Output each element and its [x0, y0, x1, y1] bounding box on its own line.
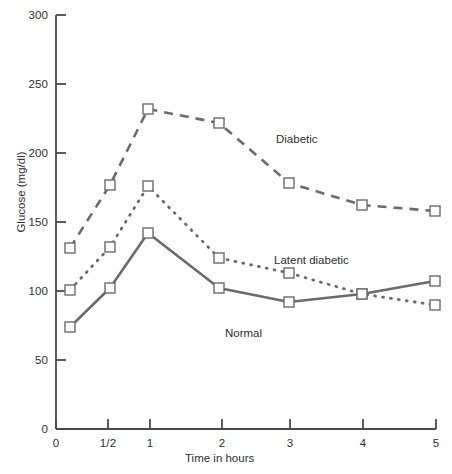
series-label-latent-diabetic: Latent diabetic — [274, 254, 349, 266]
x-axis-ticks — [56, 419, 436, 429]
x-tick-label-half: 1/2 — [100, 437, 116, 449]
series-diabetic-markers — [65, 104, 440, 253]
x-tick-label-2: 2 — [219, 437, 226, 449]
x-tick-label-4: 4 — [360, 437, 367, 449]
series-label-diabetic: Diabetic — [276, 133, 318, 145]
series-label-normal: Normal — [225, 327, 262, 339]
series-diabetic — [65, 104, 440, 253]
series-normal-line — [70, 233, 435, 327]
glucose-tolerance-chart: 300 250 200 150 100 50 0 0 1/2 1 2 3 4 5… — [0, 0, 452, 474]
y-tick-label-0: 0 — [10, 423, 48, 435]
y-tick-label-300: 300 — [10, 9, 48, 21]
x-tick-label-0: 0 — [53, 437, 60, 449]
x-tick-label-1: 1 — [147, 437, 154, 449]
series-diabetic-line — [70, 109, 435, 248]
y-axis-title: Glucose (mg/dl) — [15, 132, 27, 252]
series-latent-diabetic-line — [70, 186, 435, 305]
series-normal — [65, 228, 440, 332]
axes — [56, 15, 436, 429]
y-tick-label-250: 250 — [10, 78, 48, 90]
y-tick-label-50: 50 — [10, 354, 48, 366]
x-tick-label-3: 3 — [287, 437, 294, 449]
x-axis-title: Time in hours — [185, 452, 254, 464]
y-tick-label-100: 100 — [10, 285, 48, 297]
plot-area — [0, 0, 452, 474]
y-axis-ticks — [56, 15, 66, 360]
x-tick-label-5: 5 — [433, 437, 440, 449]
series-normal-markers — [65, 228, 440, 332]
